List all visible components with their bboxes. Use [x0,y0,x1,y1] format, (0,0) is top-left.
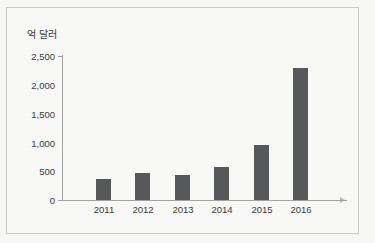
y-tick-label-500: 500 [0,166,55,177]
y-axis-tick-labels: 2,500 2,000 1,500 1,000 500 0 [0,0,55,243]
y-tick-label-2000: 2,000 [0,80,55,91]
y-tick-label-2500: 2,500 [0,51,55,62]
x-axis-line [62,200,347,201]
x-tick-label-2015: 2015 [251,204,272,215]
x-tick-label-2013: 2013 [172,204,193,215]
bar-2015[interactable] [254,145,269,200]
chart-figure: 억 달러 2,500 2,000 1,500 1,000 500 0 2011 [0,0,375,243]
x-tick-label-2016: 2016 [290,204,311,215]
y-tick-label-1500: 1,500 [0,109,55,120]
y-tick-label-1000: 1,000 [0,138,55,149]
bar-2016[interactable] [293,68,308,201]
x-tick-label-2011: 2011 [94,204,114,215]
x-tick-label-2014: 2014 [211,204,232,215]
bar-2014[interactable] [214,167,229,200]
x-tick-label-2012: 2012 [132,204,153,215]
bar-2012[interactable] [135,173,150,200]
y-tick-label-0: 0 [0,195,55,206]
bar-2013[interactable] [175,175,190,200]
bar-2011[interactable] [96,179,111,200]
plot-area [62,56,345,200]
